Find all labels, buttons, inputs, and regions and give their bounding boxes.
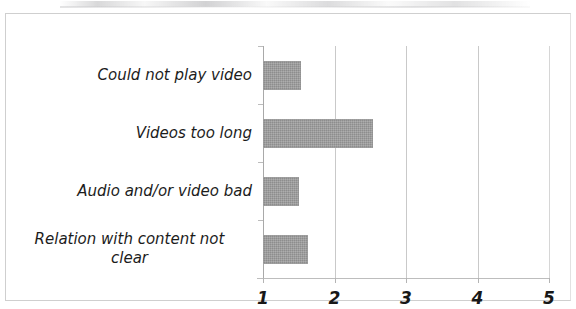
tick-mark-2 [335,278,336,283]
category-label-1: Could not play video [7,66,252,85]
x-tick-label-4: 4 [472,288,484,308]
category-tick-1 [258,46,263,47]
bar-row: Relation with content not clear [263,235,549,264]
tick-mark-3 [406,278,407,283]
gridline-5 [549,46,550,278]
bar-4 [263,235,308,264]
tick-mark-5 [549,278,550,283]
bar-1 [263,61,301,90]
scan-artifact-smudge [60,1,530,7]
bar-3 [263,177,299,206]
plot-area: Could not play videoVideos too longAudio… [263,46,549,278]
category-tick-4 [258,220,263,221]
category-tick-3 [258,162,263,163]
category-axis-line [257,278,549,279]
x-tick-label-5: 5 [543,288,555,308]
x-tick-label-1: 1 [257,288,269,308]
x-tick-label-3: 3 [400,288,412,308]
bar-row: Audio and/or video bad [263,177,549,206]
tick-mark-1 [263,278,264,283]
chart-frame: Could not play videoVideos too longAudio… [5,13,571,301]
bar-row: Could not play video [263,61,549,90]
category-label-3: Audio and/or video bad [7,182,252,201]
bar-row: Videos too long [263,119,549,148]
category-label-2: Videos too long [7,124,252,143]
x-tick-label-2: 2 [329,288,341,308]
tick-mark-4 [478,278,479,283]
category-label-4: Relation with content not clear [7,230,252,268]
category-tick-2 [258,104,263,105]
bar-2 [263,119,373,148]
